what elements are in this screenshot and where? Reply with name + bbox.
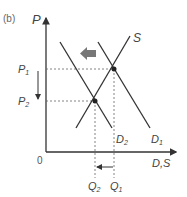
p2-label: P2 <box>18 95 29 108</box>
y-axis-label: P <box>32 12 41 27</box>
origin-label: 0 <box>37 155 43 166</box>
equilibrium-point-1 <box>112 67 117 72</box>
demand-shift-arrow-icon <box>80 47 96 60</box>
q2-label: Q2 <box>88 180 101 193</box>
demand1-label: D1 <box>151 133 163 146</box>
equilibrium-point-2 <box>93 99 98 104</box>
panel-label: (b) <box>3 13 15 24</box>
demand2-label: D2 <box>116 133 128 146</box>
p1-label: P1 <box>18 63 29 76</box>
supply-label: S <box>133 31 141 45</box>
x-axis-label: D,S <box>152 157 171 169</box>
q1-label: Q1 <box>110 180 123 193</box>
demand1-curve <box>98 42 150 128</box>
supply-demand-diagram: (b) P D,S 0 P1 P2 Q2 Q1 S D1 D2 <box>0 0 187 197</box>
